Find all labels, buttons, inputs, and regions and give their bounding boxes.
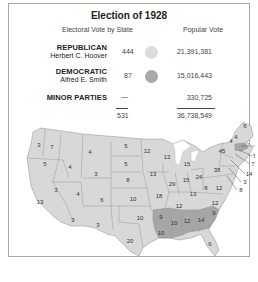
state-electoral-label: 10 [130, 196, 137, 202]
state-electoral-label: 5 [253, 153, 255, 159]
state-electoral-label: 7 [251, 161, 255, 167]
state-electoral-label: 20 [127, 238, 134, 244]
popular-vote-total: 36,738,549 [177, 112, 212, 119]
state-electoral-label: 12 [212, 200, 219, 206]
state-electoral-label: 24 [196, 174, 203, 180]
party-label: REPUBLICAN Herbert C. Hoover [50, 44, 107, 60]
electoral-votes-total: 531 [117, 112, 129, 119]
popular-vote-header: Popular Vote [183, 26, 223, 33]
election-panel: Election of 1928 Electoral Vote by State… [8, 3, 250, 257]
electoral-votes: 444 [122, 48, 134, 55]
candidate-name: Herbert C. Hoover [50, 52, 107, 59]
state-electoral-label: 14 [198, 217, 205, 223]
popular-vote: 330,725 [187, 94, 212, 101]
state-electoral-label: 13 [150, 171, 157, 177]
electoral-vote-header: Electoral Vote by State [62, 26, 133, 33]
state-electoral-label: 10 [137, 215, 144, 221]
state-electoral-label: 13 [190, 191, 197, 197]
electoral-total-rule [116, 108, 128, 109]
state-electoral-label: 3 [243, 179, 247, 185]
republican-color-swatch [145, 46, 158, 59]
party-label: DEMOCRATIC Alfred E. Smith [56, 68, 107, 84]
state-electoral-label: 12 [144, 148, 151, 154]
state-electoral-label: 14 [246, 171, 253, 177]
state-electoral-label: 38 [214, 167, 221, 173]
electoral-votes: 87 [124, 72, 132, 79]
candidate-name: Alfred E. Smith [60, 76, 107, 83]
state-electoral-label: 15 [183, 177, 190, 183]
map-title: Election of 1928 [9, 10, 249, 21]
popular-vote: 15,016,443 [177, 72, 212, 79]
state-electoral-label: 45 [219, 148, 226, 154]
state-electoral-label: 29 [169, 181, 176, 187]
state-electoral-label: 18 [156, 193, 163, 199]
state-electoral-label: 12 [184, 218, 191, 224]
party-name: REPUBLICAN [57, 43, 107, 52]
party-name: DEMOCRATIC [56, 67, 107, 76]
state-electoral-label: 12 [216, 185, 223, 191]
electoral-votes: — [121, 93, 128, 100]
popular-total-rule [177, 108, 215, 109]
state-electoral-label: 10 [158, 230, 165, 236]
party-label: MINOR PARTIES [47, 94, 107, 102]
democratic-color-swatch [145, 70, 158, 83]
party-name: MINOR PARTIES [47, 93, 107, 102]
state-electoral-label: 13 [37, 199, 44, 205]
us-electoral-map: 3754433461333558101020121313182915152413… [23, 122, 255, 257]
state-electoral-label: 15 [184, 161, 191, 167]
state-electoral-label: 13 [164, 154, 171, 160]
state-electoral-label: 8 [239, 187, 243, 193]
popular-vote: 21,391,381 [177, 48, 212, 55]
state-electoral-label: 12 [176, 203, 183, 209]
state-electoral-label: 10 [171, 220, 178, 226]
